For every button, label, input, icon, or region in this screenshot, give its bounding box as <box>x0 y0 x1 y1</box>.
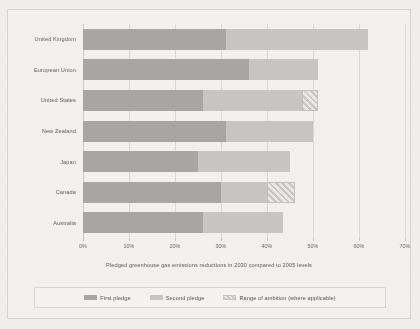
x-tick-mark <box>221 238 222 241</box>
chart-screenshot: 0%10%20%30%40%50%60%70%United KingdomEur… <box>0 0 420 329</box>
x-axis-tick-label: 70% <box>400 243 411 249</box>
bar-row[interactable]: Australia <box>83 212 405 233</box>
y-axis-category-label: Australia <box>53 220 76 226</box>
legend-label-second-pledge: Second pledge <box>166 295 205 301</box>
y-axis-category-label: United States <box>41 97 76 103</box>
x-tick-mark <box>83 238 84 241</box>
plot-area: 0%10%20%30%40%50%60%70%United KingdomEur… <box>83 24 405 238</box>
x-axis-tick-label: 20% <box>170 243 181 249</box>
x-axis-tick-label: 60% <box>354 243 365 249</box>
figure-frame: 0%10%20%30%40%50%60%70%United KingdomEur… <box>7 9 411 319</box>
x-axis-tick-label: 30% <box>216 243 227 249</box>
bar-segment-range-of-ambition[interactable] <box>267 182 295 203</box>
y-axis-category-label: New Zealand <box>42 128 76 134</box>
bar-row[interactable]: United States <box>83 90 405 111</box>
x-axis-tick-label: 40% <box>262 243 273 249</box>
legend-item-first-pledge[interactable]: First pledge <box>84 295 130 301</box>
x-axis-tick-label: 50% <box>308 243 319 249</box>
legend-swatch-second-pledge-icon <box>150 295 163 300</box>
bar-segment-range-of-ambition[interactable] <box>302 90 318 111</box>
grid-line-70pct <box>405 24 406 238</box>
y-axis-category-label: Canada <box>56 189 76 195</box>
y-axis-category-label: United Kingdom <box>35 36 76 42</box>
x-tick-mark <box>405 238 406 241</box>
bar-segment-first-pledge[interactable] <box>83 151 198 172</box>
bar-segment-first-pledge[interactable] <box>83 90 203 111</box>
y-axis-category-label: Japan <box>60 159 76 165</box>
x-tick-mark <box>267 238 268 241</box>
x-axis-tick-label: 10% <box>124 243 135 249</box>
bar-segment-first-pledge[interactable] <box>83 29 226 50</box>
x-tick-mark <box>313 238 314 241</box>
bar-segment-first-pledge[interactable] <box>83 59 249 80</box>
bar-row[interactable]: European Union <box>83 59 405 80</box>
legend-label-range-of-ambition: Range of ambition (where applicable) <box>239 295 335 301</box>
x-axis-tick-label: 0% <box>79 243 87 249</box>
bar-segment-first-pledge[interactable] <box>83 182 221 203</box>
x-tick-mark <box>175 238 176 241</box>
legend-label-first-pledge: First pledge <box>100 295 130 301</box>
bar-row[interactable]: New Zealand <box>83 121 405 142</box>
bar-row[interactable]: United Kingdom <box>83 29 405 50</box>
y-axis-category-label: European Union <box>34 67 76 73</box>
x-tick-mark <box>129 238 130 241</box>
bar-row[interactable]: Canada <box>83 182 405 203</box>
bar-segment-first-pledge[interactable] <box>83 121 226 142</box>
bar-segment-first-pledge[interactable] <box>83 212 203 233</box>
chart-legend: First pledge Second pledge Range of ambi… <box>34 287 386 308</box>
legend-item-second-pledge[interactable]: Second pledge <box>150 295 205 301</box>
chart-caption: Pledged greenhouse gas emissions reducti… <box>8 262 410 268</box>
x-tick-mark <box>359 238 360 241</box>
legend-item-range-of-ambition[interactable]: Range of ambition (where applicable) <box>223 295 335 301</box>
legend-swatch-first-pledge-icon <box>84 295 97 300</box>
legend-swatch-range-of-ambition-icon <box>223 295 236 300</box>
bar-row[interactable]: Japan <box>83 151 405 172</box>
